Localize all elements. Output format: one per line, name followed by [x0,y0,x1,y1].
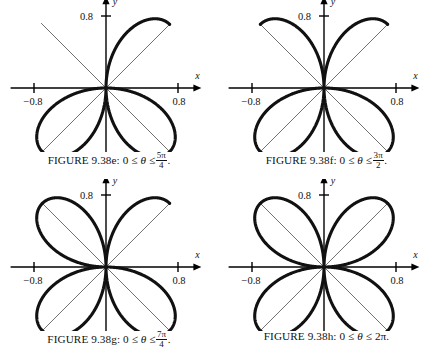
caption-text-h: FIGURE 9.38h: 0 [264,330,345,342]
caption-relation-1-h: ≤ [348,330,354,342]
figure-caption-h: FIGURE 9.38h: 0 ≤ θ ≤ 2π. [264,330,389,342]
y-axis-arrowhead [102,179,109,183]
x-axis-tick-label-positive: 0.8 [390,96,403,107]
caption-theta-g: θ [141,333,147,345]
caption-fraction-denominator-g: 4 [156,340,167,349]
caption-relation-1-e: ≤ [131,154,137,166]
plot-area-g: 0.8−0.80.8−0.8xy [2,179,216,331]
y-axis-arrowhead [102,0,109,4]
y-axis-tick-label-positive: 0.8 [80,11,93,22]
x-axis-tick-label-positive: 0.8 [172,96,185,107]
caption-text-g: FIGURE 9.38g: 0 [47,333,128,345]
x-axis-label: x [412,70,418,81]
y-axis-tick-label-positive: 0.8 [80,190,93,201]
caption-text-f: FIGURE 9.38f: 0 [266,154,346,166]
caption-fraction-denominator-f: 2 [373,161,384,170]
caption-fraction-f: 3π2 [373,151,384,170]
figure-grid: 0.8−0.80.8−0.8xy FIGURE 9.38e: 0 ≤ θ ≤5π… [0,0,435,358]
x-axis-tick-label-negative: −0.8 [241,96,260,107]
y-axis-label: y [329,179,335,186]
rose-plot-svg-e: 0.8−0.80.8−0.8xy [2,0,216,152]
y-axis-arrowhead [320,179,327,183]
caption-period-f: . [384,154,387,166]
y-axis-label: y [112,179,118,186]
x-axis-tick-label-positive: 0.8 [390,275,403,286]
x-axis-tick-label-negative: −0.8 [23,275,42,286]
caption-relation-2-h: ≤ [366,330,372,342]
caption-fraction-denominator-e: 4 [156,161,167,170]
rose-plot-svg-g: 0.8−0.80.8−0.8xy [2,179,216,331]
x-axis-arrowhead [193,84,201,91]
plot-area-f: 0.8−0.80.8−0.8xy [220,0,434,152]
caption-fraction-e: 5π4 [156,151,167,170]
caption-text-e: FIGURE 9.38e: 0 [48,154,129,166]
figure-caption-e: FIGURE 9.38e: 0 ≤ θ ≤5π4. [48,151,171,170]
y-axis-label: y [329,0,335,7]
y-axis-arrowhead [320,0,327,4]
caption-theta-f: θ [357,154,363,166]
x-axis-tick-label-positive: 0.8 [172,275,185,286]
x-axis-label: x [194,70,200,81]
x-axis-tick-label-negative: −0.8 [241,275,260,286]
x-axis-arrowhead [411,84,419,91]
caption-relation-2-f: ≤ [366,154,372,166]
caption-period-h: . [386,330,389,342]
figure-panel-g: 0.8−0.80.8−0.8xy FIGURE 9.38g: 0 ≤ θ ≤7π… [0,179,218,358]
caption-period-g: . [168,333,171,345]
rose-plot-svg-h: 0.8−0.80.8−0.8xy [220,179,434,331]
caption-theta-e: θ [140,154,146,166]
caption-relation-1-g: ≤ [132,333,138,345]
y-axis-label: y [112,0,118,7]
caption-relation-1-f: ≤ [348,154,354,166]
caption-fraction-g: 7π4 [156,330,167,349]
y-axis-tick-label-positive: 0.8 [297,190,310,201]
caption-relation-2-e: ≤ [149,154,155,166]
plot-area-h: 0.8−0.80.8−0.8xy [220,179,434,331]
figure-caption-f: FIGURE 9.38f: 0 ≤ θ ≤3π2. [266,151,387,170]
x-axis-arrowhead [411,263,419,270]
y-axis-tick-label-positive: 0.8 [297,11,310,22]
x-axis-label: x [194,249,200,260]
figure-caption-g: FIGURE 9.38g: 0 ≤ θ ≤7π4. [47,330,170,349]
caption-period-e: . [167,154,170,166]
figure-panel-f: 0.8−0.80.8−0.8xy FIGURE 9.38f: 0 ≤ θ ≤3π… [218,0,435,179]
figure-panel-h: 0.8−0.80.8−0.8xy FIGURE 9.38h: 0 ≤ θ ≤ 2… [218,179,435,358]
figure-panel-e: 0.8−0.80.8−0.8xy FIGURE 9.38e: 0 ≤ θ ≤5π… [0,0,218,179]
caption-theta-h: θ [357,330,363,342]
rose-plot-svg-f: 0.8−0.80.8−0.8xy [220,0,434,152]
caption-relation-2-g: ≤ [149,333,155,345]
plot-area-e: 0.8−0.80.8−0.8xy [2,0,216,152]
x-axis-label: x [412,249,418,260]
x-axis-tick-label-negative: −0.8 [23,96,42,107]
caption-bound-h: 2π [375,330,386,342]
x-axis-arrowhead [193,263,201,270]
